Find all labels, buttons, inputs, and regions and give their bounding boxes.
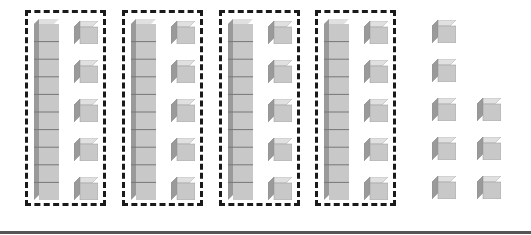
unit-cube [268,138,292,165]
unit-cube [364,60,388,87]
unit-cube [268,21,292,48]
unit-cube [171,60,195,87]
loose-unit-cube [432,176,456,203]
ten-rod [324,19,349,204]
unit-cube [171,99,195,126]
unit-cube [268,177,292,204]
group-box-3 [219,10,300,206]
unit-cube [171,177,195,204]
loose-unit-cube [477,137,501,164]
unit-cube [364,177,388,204]
unit-cube [74,21,98,48]
unit-cube [74,60,98,87]
unit-cube [268,99,292,126]
loose-unit-cube [477,176,501,203]
unit-cube [171,138,195,165]
unit-cube [364,21,388,48]
group-box-1 [25,10,106,206]
unit-cube [74,99,98,126]
group-box-4 [315,10,396,206]
unit-cube [364,99,388,126]
unit-cube [171,21,195,48]
ten-rod [34,19,59,204]
loose-unit-cube [477,98,501,125]
loose-unit-cube [432,98,456,125]
unit-cube [74,138,98,165]
unit-cube [268,60,292,87]
loose-unit-cube [432,20,456,47]
loose-unit-cube [432,137,456,164]
baseline-divider [0,231,531,234]
ten-rod [228,19,253,204]
unit-cube [364,138,388,165]
unit-cube [74,177,98,204]
loose-unit-cube [432,59,456,86]
ten-rod [131,19,156,204]
group-box-2 [122,10,203,206]
